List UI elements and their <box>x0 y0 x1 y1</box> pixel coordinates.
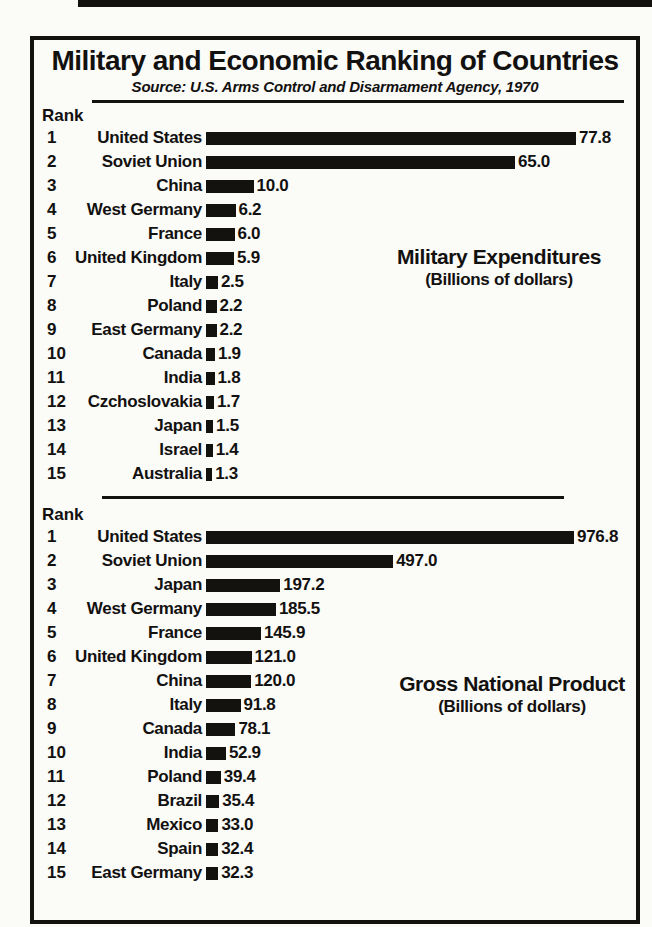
country-label: West Germany <box>74 599 202 619</box>
chart-row: 2 Soviet Union 65.0 <box>34 150 636 174</box>
bar <box>206 531 574 544</box>
value-label: 1.5 <box>216 416 239 436</box>
chart-row: 8 Italy 91.8 <box>34 693 636 717</box>
rank-value: 9 <box>34 320 74 340</box>
rank-value: 3 <box>34 176 74 196</box>
rank-value: 3 <box>34 575 74 595</box>
chart-row: 1 United States 976.8 <box>34 525 636 549</box>
value-label: 1.8 <box>218 368 241 388</box>
country-label: United States <box>74 128 202 148</box>
country-label: Italy <box>74 272 202 292</box>
value-label: 6.2 <box>239 200 262 220</box>
chart-row: 5 France 145.9 <box>34 621 636 645</box>
bar <box>206 747 226 760</box>
bar <box>206 723 235 736</box>
country-label: United Kingdom <box>74 248 202 268</box>
chart-row: 9 East Germany 2.2 <box>34 318 636 342</box>
chart-row: 7 Italy 2.5 <box>34 270 636 294</box>
value-label: 78.1 <box>238 719 270 739</box>
value-label: 497.0 <box>396 551 437 571</box>
value-label: 91.8 <box>244 695 276 715</box>
rank-value: 10 <box>34 344 74 364</box>
rank-value: 8 <box>34 695 74 715</box>
chart-row: 6 United Kingdom 121.0 <box>34 645 636 669</box>
chart-row: 7 China 120.0 <box>34 669 636 693</box>
value-label: 2.2 <box>220 296 243 316</box>
bar <box>206 348 215 361</box>
section-divider <box>102 496 564 499</box>
chart-rows: 1 United States 976.8 2 Soviet Union 497… <box>34 525 636 885</box>
bar <box>206 771 221 784</box>
rank-value: 5 <box>34 623 74 643</box>
bar <box>206 867 218 880</box>
bar <box>206 627 261 640</box>
bar <box>206 819 218 832</box>
chart-row: 10 Canada 1.9 <box>34 342 636 366</box>
value-label: 121.0 <box>255 647 296 667</box>
bar <box>206 180 254 193</box>
bar <box>206 651 252 664</box>
country-label: Czchoslovakia <box>74 392 202 412</box>
rank-value: 13 <box>34 416 74 436</box>
country-label: Poland <box>74 296 202 316</box>
rank-value: 6 <box>34 647 74 667</box>
chart-row: 1 United States 77.8 <box>34 126 636 150</box>
bar <box>206 675 251 688</box>
country-label: Japan <box>74 575 202 595</box>
rank-value: 8 <box>34 296 74 316</box>
bar <box>206 468 212 481</box>
country-label: Brazil <box>74 791 202 811</box>
value-label: 10.0 <box>257 176 289 196</box>
bar <box>206 204 236 217</box>
value-label: 1.4 <box>216 440 239 460</box>
source-line: Source: U.S. Arms Control and Disarmamen… <box>34 78 636 95</box>
value-label: 33.0 <box>221 815 253 835</box>
rank-header: Rank <box>42 105 636 126</box>
chart-row: 12 Czchoslovakia 1.7 <box>34 390 636 414</box>
bar <box>206 396 214 409</box>
rank-value: 12 <box>34 392 74 412</box>
bar <box>206 795 219 808</box>
page-title: Military and Economic Ranking of Countri… <box>34 45 636 77</box>
chart-row: 8 Poland 2.2 <box>34 294 636 318</box>
chart-row: 11 India 1.8 <box>34 366 636 390</box>
value-label: 32.4 <box>221 839 253 859</box>
chart-row: 3 Japan 197.2 <box>34 573 636 597</box>
value-label: 6.0 <box>238 224 261 244</box>
rank-value: 2 <box>34 152 74 172</box>
country-label: Australia <box>74 464 202 484</box>
bar <box>206 276 218 289</box>
chart-row: 12 Brazil 35.4 <box>34 789 636 813</box>
value-label: 39.4 <box>224 767 256 787</box>
rank-value: 15 <box>34 464 74 484</box>
chart-row: 9 Canada 78.1 <box>34 717 636 741</box>
bar <box>206 324 217 337</box>
value-label: 185.5 <box>279 599 320 619</box>
country-label: United Kingdom <box>74 647 202 667</box>
rank-value: 5 <box>34 224 74 244</box>
bar <box>206 372 215 385</box>
country-label: Poland <box>74 767 202 787</box>
gross-national-product-chart: Rank 1 United States 976.8 2 Soviet Unio… <box>34 504 636 885</box>
rank-value: 7 <box>34 671 74 691</box>
chart-row: 11 Poland 39.4 <box>34 765 636 789</box>
value-label: 145.9 <box>264 623 305 643</box>
chart-rows: 1 United States 77.8 2 Soviet Union 65.0… <box>34 126 636 486</box>
rank-value: 1 <box>34 527 74 547</box>
rank-value: 1 <box>34 128 74 148</box>
country-label: United States <box>74 527 202 547</box>
bar <box>206 228 235 241</box>
rank-value: 15 <box>34 863 74 883</box>
rank-value: 6 <box>34 248 74 268</box>
chart-row: 5 France 6.0 <box>34 222 636 246</box>
country-label: France <box>74 623 202 643</box>
country-label: China <box>74 176 202 196</box>
bar <box>206 156 515 169</box>
bar <box>206 420 213 433</box>
country-label: India <box>74 368 202 388</box>
rank-value: 9 <box>34 719 74 739</box>
chart-row: 4 West Germany 6.2 <box>34 198 636 222</box>
value-label: 52.9 <box>229 743 261 763</box>
figure-frame: Military and Economic Ranking of Countri… <box>30 36 640 924</box>
value-label: 197.2 <box>283 575 324 595</box>
